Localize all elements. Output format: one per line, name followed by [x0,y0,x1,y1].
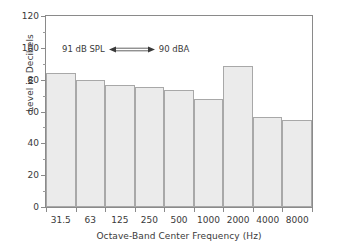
bar [194,99,224,207]
x-axis-tick [105,207,106,212]
x-axis-title: Octave-Band Center Frequency (Hz) [45,231,313,241]
x-axis-tick-label: 250 [141,215,158,225]
y-axis-tick-label: 80 [28,75,39,85]
y-axis-tick-label: 60 [28,107,39,117]
x-axis-tick [253,207,254,212]
x-axis-tick-label: 125 [111,215,128,225]
y-axis-tick [41,16,46,17]
y-axis-tick [41,48,46,49]
bar [282,120,312,207]
bar [46,73,76,207]
bar [105,85,135,207]
x-axis-tick-label: 1000 [197,215,220,225]
bar [253,117,283,207]
x-axis-tick [223,207,224,212]
bar [164,90,194,207]
x-axis-tick-label: 8000 [286,215,309,225]
y-axis-tick-label: 0 [33,202,39,212]
x-axis-tick [76,207,77,212]
x-axis-tick-label: 4000 [256,215,279,225]
y-axis-minor-tick [43,32,46,33]
annotation-91db-to-90dba: 91 dB SPL 90 dBA [62,45,189,54]
x-axis-tick [135,207,136,212]
x-axis-tick [312,207,313,212]
bar-chart-figure: Level in Decibels 02040608010012031.5631… [0,0,345,251]
x-axis-tick [164,207,165,212]
y-axis-tick-label: 40 [28,138,39,148]
annotation-right-label: 90 dBA [159,45,190,54]
x-axis-tick-label: 2000 [227,215,250,225]
bar [135,87,165,207]
double-headed-arrow-icon [109,45,155,54]
y-axis-tick-label: 120 [22,11,39,21]
annotation-left-label: 91 dB SPL [62,45,105,54]
x-axis-tick [46,207,47,212]
x-axis-tick [194,207,195,212]
y-axis-minor-tick [43,64,46,65]
bar [76,80,106,207]
x-axis-tick-label: 63 [85,215,96,225]
x-axis-tick [282,207,283,212]
y-axis-tick-label: 20 [28,170,39,180]
y-axis-tick-label: 100 [22,43,39,53]
x-axis-tick-label: 500 [170,215,187,225]
x-axis-tick-label: 31.5 [51,215,71,225]
bar [223,66,253,207]
